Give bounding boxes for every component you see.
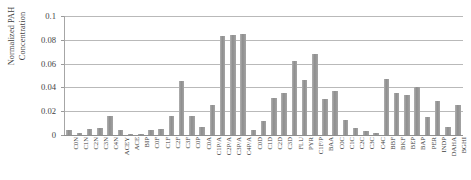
bar (148, 130, 154, 135)
y-axis-tick-mark (61, 87, 64, 88)
y-axis-tick-mark (61, 64, 64, 65)
x-label-slot: C4N (105, 136, 115, 180)
x-label-slot: DAHA (443, 136, 453, 180)
bar (107, 116, 113, 135)
bar-slot (289, 16, 299, 135)
bar-slot (177, 16, 187, 135)
bar (435, 101, 441, 136)
bar-slot (422, 16, 432, 135)
bar-slot (351, 16, 361, 135)
bar (158, 129, 164, 135)
bar (281, 93, 287, 135)
bar (425, 117, 431, 135)
bar-slot (402, 16, 412, 135)
y-axis-tick-labels: 00.020.040.060.080.1 (0, 0, 60, 180)
bar (394, 93, 400, 135)
y-axis-tick-label: 0.02 (41, 106, 56, 116)
x-label-slot: C4C (371, 136, 381, 180)
bar-slot (156, 16, 166, 135)
bar-slot (279, 16, 289, 135)
x-label-slot: C2C (351, 136, 361, 180)
x-label-slot: C3C (361, 136, 371, 180)
bar-series (64, 16, 463, 135)
y-axis-tick-mark (61, 40, 64, 41)
bar (210, 105, 216, 135)
bar (302, 80, 308, 135)
bar-slot (187, 16, 197, 135)
bar-slot (320, 16, 330, 135)
x-label-slot: C4P/A (238, 136, 248, 180)
x-label-slot: BGHI (453, 136, 463, 180)
bar-slot (310, 16, 320, 135)
bar-slot (115, 16, 125, 135)
y-axis-tick-label: 0.04 (41, 82, 56, 92)
bar-slot (95, 16, 105, 135)
x-label-slot: C1D (258, 136, 268, 180)
bar-slot (197, 16, 207, 135)
bar-slot (392, 16, 402, 135)
bar-slot (166, 16, 176, 135)
bar-slot (299, 16, 309, 135)
x-label-slot: BAA (320, 136, 330, 180)
bar (199, 127, 205, 135)
x-label-slot: FLU (289, 136, 299, 180)
bar (363, 131, 369, 135)
bar-slot (238, 16, 248, 135)
x-label-slot: BIP (136, 136, 146, 180)
bar (128, 134, 134, 135)
bar-slot (371, 16, 381, 135)
x-label-slot: BEP (402, 136, 412, 180)
bar (87, 129, 93, 135)
bar-slot (381, 16, 391, 135)
bar-slot (228, 16, 238, 135)
x-label-slot: C0N (64, 136, 74, 180)
x-label-slot: PER (422, 136, 432, 180)
bar (455, 105, 461, 135)
bar (332, 91, 338, 135)
x-label-slot: C2D (269, 136, 279, 180)
bar (77, 133, 83, 135)
bar (322, 99, 328, 135)
bar-slot (258, 16, 268, 135)
bar (189, 116, 195, 135)
x-label-slot: C1N (74, 136, 84, 180)
bar (384, 79, 390, 135)
bar-chart: Normalized PAH Concentration 00.020.040.… (0, 0, 471, 180)
bar (220, 36, 226, 135)
x-label-slot: C1P/A (207, 136, 217, 180)
x-label-slot: ACE (125, 136, 135, 180)
x-label-slot: C3F (177, 136, 187, 180)
bar-slot (74, 16, 84, 135)
y-axis-tick-mark (61, 111, 64, 112)
bar-slot (361, 16, 371, 135)
x-label-slot: C1C (340, 136, 350, 180)
bar (404, 95, 410, 135)
bar (445, 127, 451, 135)
bar (261, 121, 267, 135)
bar-slot (453, 16, 463, 135)
bar-slot (207, 16, 217, 135)
bar (138, 134, 144, 135)
x-label-slot: BBF (381, 136, 391, 180)
bar-slot (146, 16, 156, 135)
y-axis-tick-label: 0 (52, 130, 56, 140)
x-label-slot: C0C (330, 136, 340, 180)
bar (179, 81, 185, 135)
x-label-slot: C0P (187, 136, 197, 180)
y-axis-tick-label: 0.06 (41, 59, 56, 69)
bar (169, 116, 175, 135)
bar-slot (125, 16, 135, 135)
x-label-slot: PYR (299, 136, 309, 180)
bar-slot (84, 16, 94, 135)
bar (343, 120, 349, 135)
x-axis-tick-label: BGHI (461, 137, 468, 153)
bar (312, 54, 318, 135)
x-label-slot: C2F (166, 136, 176, 180)
x-label-slot: C3N (95, 136, 105, 180)
x-label-slot: C2N (84, 136, 94, 180)
x-label-slot: C1F (156, 136, 166, 180)
y-axis-tick-label: 0.08 (41, 35, 56, 45)
y-axis-tick-label: 0.1 (45, 11, 56, 21)
bar (292, 61, 298, 135)
bar (251, 130, 257, 135)
